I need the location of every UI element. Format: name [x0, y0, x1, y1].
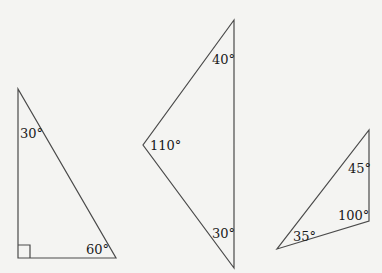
right-triangle-outline: [18, 89, 116, 258]
angle-label-t1-bottom-right: 60°: [86, 243, 109, 256]
small-obtuse-triangle: [277, 130, 369, 249]
angle-label-t2-top: 40°: [212, 53, 235, 66]
right-triangle: [18, 89, 116, 258]
angle-label-t1-top: 30°: [20, 127, 43, 140]
triangles-figure: 30° 60° 40° 110° 30° 45° 100° 35°: [0, 0, 382, 273]
angle-label-t3-top: 45°: [348, 162, 371, 175]
small-obtuse-triangle-outline: [277, 130, 369, 249]
right-angle-marker-icon: [18, 245, 30, 258]
angle-label-t2-bottom: 30°: [212, 227, 235, 240]
angle-label-t3-right: 100°: [338, 209, 369, 222]
angle-label-t3-bottom-left: 35°: [293, 230, 316, 243]
triangles-drawing: [0, 0, 382, 273]
angle-label-t2-left: 110°: [150, 139, 181, 152]
